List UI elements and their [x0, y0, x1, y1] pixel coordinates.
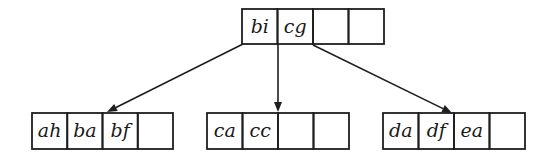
- edge-line: [116, 44, 243, 108]
- edge-line: [313, 45, 443, 109]
- cell-key: df: [427, 119, 449, 141]
- arrowhead-icon: [107, 104, 118, 112]
- edge-root-to-middle: [274, 44, 282, 112]
- node-middle: cacc: [207, 113, 349, 149]
- arrowhead-icon: [274, 102, 282, 112]
- cell-key: bi: [251, 15, 269, 37]
- node-root: bicg: [242, 9, 384, 44]
- b-tree-diagram: bicgahbabfcaccdadfea: [0, 0, 551, 166]
- node-cell: [349, 9, 385, 44]
- node-left: ahbabf: [32, 113, 173, 149]
- cell-key: ca: [214, 119, 236, 141]
- node-cell: [278, 113, 314, 149]
- arrowhead-icon: [441, 105, 452, 113]
- node-cell: [490, 113, 526, 149]
- cell-key: da: [389, 119, 413, 141]
- cell-key: ba: [73, 119, 97, 141]
- edge-root-to-right: [313, 45, 452, 113]
- node-cell: [314, 113, 350, 149]
- node-cell: [138, 113, 173, 149]
- edge-root-to-left: [107, 44, 243, 112]
- cell-key: bf: [111, 119, 133, 141]
- cell-key: ea: [460, 119, 483, 141]
- node-right: dadfea: [383, 113, 525, 149]
- cell-key: cg: [284, 15, 307, 37]
- cell-key: cc: [250, 119, 272, 141]
- cell-key: ah: [38, 119, 62, 141]
- node-cell: [313, 9, 349, 44]
